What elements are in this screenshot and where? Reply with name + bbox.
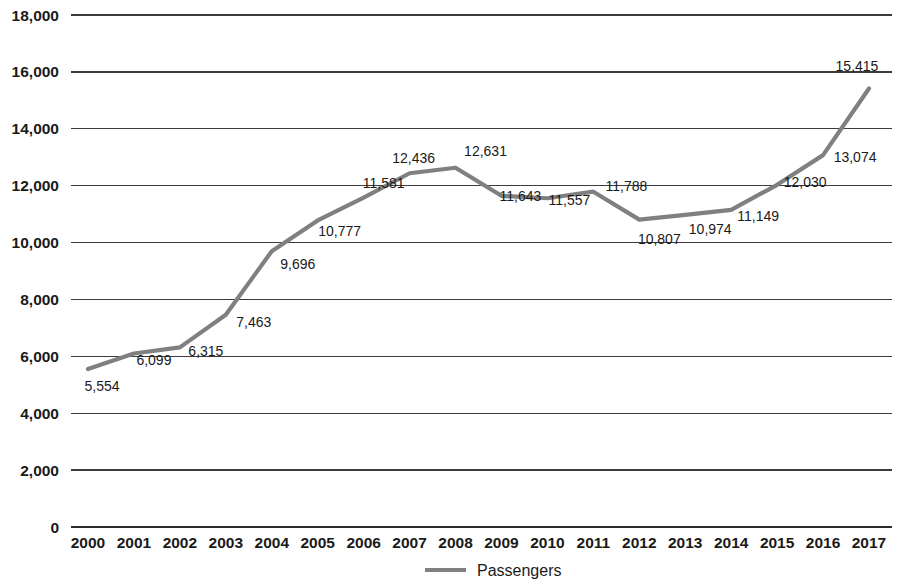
x-axis-tick-label: 2017 xyxy=(852,534,886,551)
data-point-labels: 5,5546,0996,3157,4639,69610,77711,58112,… xyxy=(84,58,878,394)
x-axis-tick-label: 2014 xyxy=(714,534,749,551)
x-axis-tick-label: 2003 xyxy=(209,534,244,551)
x-axis-tick-label: 2009 xyxy=(484,534,519,551)
data-point-label: 10,974 xyxy=(689,221,732,237)
series-passengers xyxy=(88,89,869,369)
x-axis-tick-labels: 2000200120022003200420052006200720082009… xyxy=(71,534,886,551)
x-axis-tick-label: 2016 xyxy=(806,534,841,551)
data-point-label: 11,788 xyxy=(605,178,647,194)
data-point-label: 10,777 xyxy=(318,223,361,239)
y-axis-tick-label: 0 xyxy=(50,519,59,536)
y-axis-tick-label: 14,000 xyxy=(12,120,59,137)
x-axis-tick-label: 2011 xyxy=(577,534,611,551)
chart-canvas: 02,0004,0006,0008,00010,00012,00014,0001… xyxy=(0,0,901,582)
x-axis-tick-label: 2012 xyxy=(622,534,656,551)
series-line-passengers xyxy=(88,89,869,369)
legend-label-passengers: Passengers xyxy=(477,562,562,579)
data-point-label: 15,415 xyxy=(836,58,879,74)
x-axis-tick-label: 2001 xyxy=(117,534,152,551)
x-axis-tick-label: 2005 xyxy=(300,534,335,551)
data-point-label: 11,149 xyxy=(737,208,779,224)
data-point-label: 11,581 xyxy=(363,175,405,191)
x-axis-tick-label: 2002 xyxy=(163,534,197,551)
data-point-label: 12,436 xyxy=(392,150,435,166)
x-axis-tick-label: 2008 xyxy=(438,534,473,551)
x-axis-tick-label: 2010 xyxy=(530,534,564,551)
x-axis-tick-label: 2007 xyxy=(392,534,426,551)
data-point-label: 10,807 xyxy=(638,231,681,247)
y-axis-tick-labels: 02,0004,0006,0008,00010,00012,00014,0001… xyxy=(12,7,59,536)
data-point-label: 7,463 xyxy=(236,314,271,330)
y-axis-tick-label: 2,000 xyxy=(20,462,59,479)
y-axis-tick-label: 8,000 xyxy=(20,291,59,308)
x-axis-tick-label: 2006 xyxy=(346,534,381,551)
data-point-label: 12,631 xyxy=(464,143,507,159)
data-point-label: 9,696 xyxy=(280,256,315,272)
data-point-label: 6,315 xyxy=(188,343,223,359)
data-point-label: 13,074 xyxy=(834,149,877,165)
y-axis-tick-label: 12,000 xyxy=(12,177,59,194)
y-axis-tick-label: 6,000 xyxy=(20,348,59,365)
y-axis-tick-label: 4,000 xyxy=(20,405,59,422)
data-point-label: 6,099 xyxy=(136,352,171,368)
y-axis-tick-label: 18,000 xyxy=(12,7,59,24)
passengers-line-chart: 02,0004,0006,0008,00010,00012,00014,0001… xyxy=(0,0,901,582)
x-axis-tick-label: 2000 xyxy=(71,534,105,551)
data-point-label: 12,030 xyxy=(784,174,827,190)
x-axis-tick-label: 2004 xyxy=(255,534,290,551)
y-axis-tick-label: 10,000 xyxy=(12,234,59,251)
y-axis-tick-label: 16,000 xyxy=(12,63,59,80)
x-axis-tick-label: 2013 xyxy=(668,534,703,551)
data-point-label: 5,554 xyxy=(84,378,119,394)
gridlines-group xyxy=(71,15,892,527)
data-point-label: 11,557 xyxy=(549,192,591,208)
data-point-label: 11,643 xyxy=(500,188,542,204)
chart-legend: Passengers xyxy=(425,562,562,579)
x-axis-tick-label: 2015 xyxy=(760,534,795,551)
